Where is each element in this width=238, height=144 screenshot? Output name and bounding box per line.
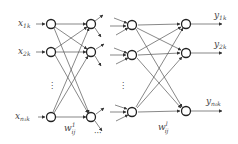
hidden-layer-1-nodes	[87, 20, 96, 122]
output-label-2: y2k	[213, 39, 227, 50]
hidden2-node-n	[128, 108, 137, 117]
hidden1-node-n	[87, 113, 96, 122]
neural-network-diagram: x1k x2k xn₁k y1k y2k yn₀k ⋮ ⋮ ··· w1ij w…	[0, 0, 238, 144]
output-node-n	[182, 107, 191, 116]
input-arrows	[36, 24, 45, 117]
input-node-n	[47, 113, 56, 122]
hidden-layer-2-nodes	[128, 21, 137, 117]
input-ellipsis: ⋮	[48, 81, 56, 90]
output-label-n: yn₀k	[205, 96, 221, 107]
input-label-2: x2k	[18, 46, 31, 57]
hidden1-node-1	[87, 20, 96, 29]
edges-layer-1-out	[95, 15, 104, 131]
input-node-2	[47, 48, 56, 57]
edges-layer-0-1	[53, 24, 89, 117]
output-node-1	[182, 20, 191, 29]
hidden2-node-1	[128, 21, 137, 30]
input-layer-nodes	[47, 20, 56, 122]
edges-layer-2-3	[136, 24, 183, 112]
output-layer-nodes	[182, 20, 191, 116]
weight-label-last: wlij	[158, 120, 169, 135]
weight-label-first: w1ij	[64, 121, 76, 136]
output-label-1: y1k	[213, 10, 227, 21]
edges-layer-2-in	[110, 18, 128, 121]
hidden-ellipsis: ⋮	[119, 81, 127, 90]
layer-ellipsis: ···	[94, 129, 102, 138]
output-node-2	[182, 49, 191, 58]
hidden1-node-2	[87, 48, 96, 57]
input-label-n: xn₁k	[15, 111, 30, 122]
input-label-1: x1k	[18, 18, 31, 29]
input-node-1	[47, 20, 56, 29]
hidden2-node-2	[128, 51, 137, 60]
